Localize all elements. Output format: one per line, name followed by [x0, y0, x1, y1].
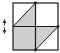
- arrow-down-head-icon: [3, 30, 7, 34]
- folding-square-diagram: [0, 0, 60, 53]
- bottom-center-dot: [34, 49, 37, 52]
- bottom-left-square: [13, 27, 36, 51]
- right-center-dot: [57, 25, 60, 28]
- arrow-up-head-icon: [3, 19, 7, 23]
- vertical-double-arrow-icon: [3, 19, 7, 34]
- top-center-dot: [34, 2, 37, 5]
